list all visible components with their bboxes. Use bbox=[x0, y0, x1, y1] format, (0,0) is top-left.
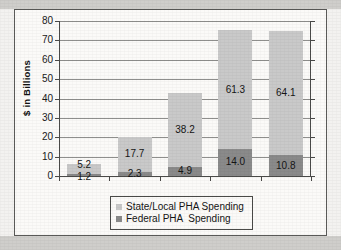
y-tick-label: 70 bbox=[42, 35, 53, 45]
y-tick-label: 0 bbox=[47, 171, 53, 181]
data-label-state-local: 38.2 bbox=[175, 125, 194, 135]
legend-label: Federal PHA Spending bbox=[126, 213, 231, 225]
data-label-state-local: 61.3 bbox=[226, 85, 245, 95]
x-tick-mark bbox=[311, 177, 312, 181]
y-tick-mark bbox=[55, 118, 59, 119]
y-tick-mark-right bbox=[311, 99, 315, 100]
data-label-federal: 4.9 bbox=[178, 166, 192, 176]
page-border-right bbox=[326, 9, 327, 236]
legend-item[interactable]: Federal PHA Spending bbox=[116, 213, 244, 225]
gridline bbox=[60, 21, 310, 22]
x-tick-mark bbox=[160, 177, 161, 181]
scan-band-top bbox=[0, 0, 341, 9]
y-tick-mark-right bbox=[311, 157, 315, 158]
data-label-federal: 14.0 bbox=[226, 157, 245, 167]
y-tick-mark bbox=[55, 137, 59, 138]
y-tick-mark bbox=[55, 157, 59, 158]
legend-item[interactable]: State/Local PHA Spending bbox=[116, 201, 244, 213]
y-tick-mark-right bbox=[311, 60, 315, 61]
y-tick-mark bbox=[55, 21, 59, 22]
chart-legend: State/Local PHA SpendingFederal PHA Spen… bbox=[110, 196, 253, 230]
x-tick-mark bbox=[210, 177, 211, 181]
y-tick-label: 60 bbox=[42, 55, 53, 65]
y-tick-mark-right bbox=[311, 137, 315, 138]
x-tick-mark bbox=[59, 177, 60, 181]
y-tick-mark-right bbox=[311, 118, 315, 119]
data-label-federal: 2.3 bbox=[128, 169, 142, 179]
y-tick-label: 30 bbox=[42, 113, 53, 123]
y-tick-label: 10 bbox=[42, 152, 53, 162]
data-label-federal: 10.8 bbox=[276, 161, 295, 171]
y-tick-mark-right bbox=[311, 21, 315, 22]
plot-area: 80706050403020100 5.21.2198017.72.319903… bbox=[59, 21, 311, 176]
legend-swatch-icon bbox=[116, 204, 122, 210]
legend-swatch-icon bbox=[116, 216, 122, 222]
data-label-state-local: 64.1 bbox=[276, 88, 295, 98]
x-tick-mark bbox=[109, 177, 110, 181]
y-tick-mark-right bbox=[311, 40, 315, 41]
y-tick-mark bbox=[55, 99, 59, 100]
scan-band-bottom bbox=[0, 236, 341, 250]
x-tick-mark bbox=[261, 177, 262, 181]
data-label-state-local: 17.7 bbox=[125, 149, 144, 159]
y-axis-title: $ in Billions bbox=[21, 60, 35, 116]
y-tick-mark-right bbox=[311, 79, 315, 80]
legend-label: State/Local PHA Spending bbox=[126, 201, 244, 213]
data-label-state-local: 5.2 bbox=[77, 160, 91, 170]
y-tick-label: 40 bbox=[42, 94, 53, 104]
y-tick-mark bbox=[55, 40, 59, 41]
y-tick-label: 20 bbox=[42, 132, 53, 142]
y-tick-mark bbox=[55, 60, 59, 61]
y-tick-label: 80 bbox=[42, 16, 53, 26]
y-tick-label: 50 bbox=[42, 74, 53, 84]
page-border-bottom bbox=[14, 235, 327, 236]
chart-paper: $ in Billions 80706050403020100 5.21.219… bbox=[15, 10, 326, 235]
scanned-page: $ in Billions 80706050403020100 5.21.219… bbox=[0, 0, 341, 250]
data-label-federal: 1.2 bbox=[77, 172, 91, 182]
y-tick-mark bbox=[55, 79, 59, 80]
stacked-bar-chart: $ in Billions 80706050403020100 5.21.219… bbox=[15, 10, 326, 235]
